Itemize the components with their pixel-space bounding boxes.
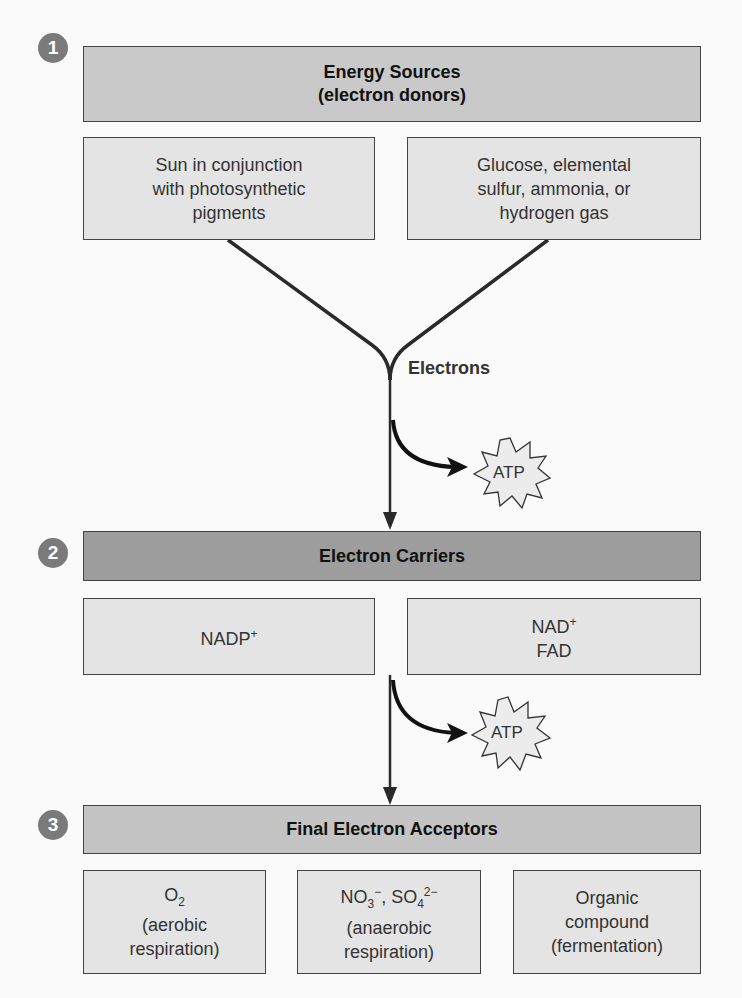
carrier-nad-text: NAD+ bbox=[531, 610, 576, 639]
final-acceptors-header: Final Electron Acceptors bbox=[83, 805, 701, 854]
electron-carriers-header: Electron Carriers bbox=[83, 531, 701, 581]
electrons-label: Electrons bbox=[408, 358, 490, 379]
acceptor-box-text: respiration) bbox=[129, 937, 219, 961]
carrier-nadp-text: NADP+ bbox=[200, 622, 257, 651]
carrier-box-nadp: NADP+ bbox=[83, 598, 375, 675]
acceptor-box-nitrate-sulfate: NO3−, SO42− (anaerobic respiration) bbox=[297, 870, 481, 974]
energy-sources-subtitle: (electron donors) bbox=[318, 84, 466, 107]
acceptor-o2-text: O2 bbox=[164, 883, 185, 914]
donor-box-text: sulfur, ammonia, or bbox=[477, 177, 630, 201]
atp-label-1: ATP bbox=[493, 463, 525, 483]
donor-box-text: hydrogen gas bbox=[499, 201, 608, 225]
acceptor-box-text: (fermentation) bbox=[551, 934, 663, 958]
acceptor-box-text: (aerobic bbox=[142, 913, 207, 937]
donor-box-text: pigments bbox=[192, 201, 265, 225]
electron-carriers-title: Electron Carriers bbox=[319, 545, 465, 568]
carrier-box-nad-fad: NAD+ FAD bbox=[407, 598, 701, 675]
atp-branch-arrow-1 bbox=[393, 420, 455, 467]
acceptor-box-text: Organic bbox=[575, 886, 638, 910]
energy-sources-header: Energy Sources (electron donors) bbox=[83, 46, 701, 122]
donor-box-text: with photosynthetic bbox=[152, 177, 305, 201]
donor-box-text: Sun in conjunction bbox=[155, 153, 302, 177]
step-badge-3: 3 bbox=[38, 810, 68, 840]
left-donor-line bbox=[228, 240, 390, 380]
step-badge-2: 2 bbox=[38, 538, 68, 568]
energy-sources-title: Energy Sources bbox=[323, 61, 460, 84]
carrier-fad-text: FAD bbox=[536, 639, 571, 663]
acceptor-box-text: compound bbox=[565, 910, 649, 934]
final-acceptors-title: Final Electron Acceptors bbox=[286, 818, 497, 841]
step-badge-1: 1 bbox=[38, 33, 68, 63]
acceptor-box-text: (anaerobic bbox=[346, 916, 431, 940]
atp-branch-arrow-2 bbox=[393, 680, 455, 733]
donor-box-chemicals: Glucose, elemental sulfur, ammonia, or h… bbox=[407, 137, 701, 240]
acceptor-box-oxygen: O2 (aerobic respiration) bbox=[83, 870, 266, 974]
donor-box-sunlight: Sun in conjunction with photosynthetic p… bbox=[83, 137, 375, 240]
atp-label-2: ATP bbox=[491, 723, 523, 743]
acceptor-no3-so4-text: NO3−, SO42− bbox=[340, 880, 437, 916]
donor-box-text: Glucose, elemental bbox=[477, 153, 631, 177]
acceptor-box-organic: Organic compound (fermentation) bbox=[513, 870, 701, 974]
acceptor-box-text: respiration) bbox=[344, 940, 434, 964]
